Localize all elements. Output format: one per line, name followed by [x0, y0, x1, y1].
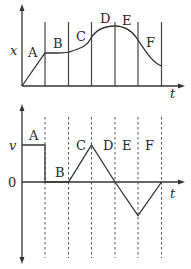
x-axis-label: x	[10, 43, 18, 58]
v-segment-label-f: F	[145, 138, 154, 153]
segment-label-a: A	[27, 45, 38, 60]
segment-label-b: B	[53, 36, 63, 51]
v-up-arrow-icon	[20, 104, 25, 111]
x-arrow-icon	[178, 84, 185, 89]
segment-label-e: E	[122, 13, 132, 28]
t-arrow-icon	[178, 180, 185, 185]
velocity-curve	[22, 145, 162, 216]
position-velocity-diagram: x t A B C D E F v 0 t A B C D E F	[0, 0, 191, 269]
segment-label-c: C	[76, 29, 86, 44]
zero-label: 0	[8, 175, 16, 190]
v-segment-label-a: A	[28, 128, 39, 143]
v-segment-label-e: E	[122, 138, 132, 153]
v-segment-label-b: B	[55, 165, 65, 180]
t-axis-label: t	[170, 86, 176, 101]
velocity-time-graph: v 0 t A B C D E F	[8, 104, 185, 264]
segment-label-f: F	[146, 35, 155, 50]
v-segment-label-d: D	[103, 138, 113, 153]
v-down-arrow-icon	[20, 257, 25, 264]
v-segment-label-c: C	[76, 138, 86, 153]
position-time-graph: x t A B C D E F	[10, 4, 185, 101]
v-axis-label: v	[9, 138, 17, 153]
t-axis-label-bottom: t	[170, 186, 176, 201]
segment-dividers	[45, 22, 162, 86]
segment-label-d: D	[100, 11, 110, 26]
y-arrow-icon	[20, 4, 25, 11]
